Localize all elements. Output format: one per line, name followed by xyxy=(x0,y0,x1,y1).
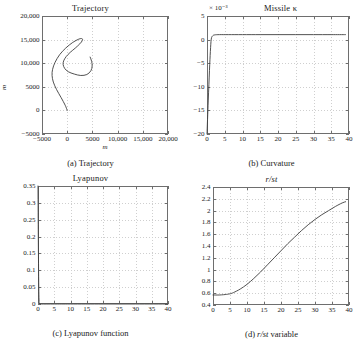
ytick-label: 0.15 xyxy=(23,250,35,257)
xtick-label: 35 xyxy=(329,307,336,314)
ytick-label: 0.05 xyxy=(23,284,35,291)
ytick-label: 2.4 xyxy=(202,184,211,191)
panel-a-caption: (a) Trajectory xyxy=(0,158,181,168)
xtick-label: 10 xyxy=(244,307,251,314)
panel-d-caption: (d) r/st variable xyxy=(181,329,362,339)
axis-tick-y xyxy=(42,134,45,135)
plot-curve-layer xyxy=(207,16,349,134)
series-missile-curvature xyxy=(207,35,345,134)
ytick-label: 1.4 xyxy=(202,243,211,250)
panel-a-ylabel: m xyxy=(1,85,8,90)
axis-tick-x xyxy=(349,131,350,134)
xtick-label: 15 xyxy=(257,136,264,143)
ytick-label: 0.2 xyxy=(27,233,36,240)
xtick-label: 20,000 xyxy=(158,136,177,143)
plot-curve-layer xyxy=(38,186,168,304)
xtick-label: 20 xyxy=(278,307,285,314)
panel-a-xlabel: m xyxy=(42,144,168,151)
ytick-label: 1.8 xyxy=(202,219,211,226)
ytick-label: 1.6 xyxy=(202,231,211,238)
panel-d-caption-suffix: variable xyxy=(268,329,298,339)
xtick-label: 25 xyxy=(116,306,123,313)
ytick-label: −15 xyxy=(194,107,205,114)
xtick-label: 20 xyxy=(275,136,282,143)
series-lyapunov xyxy=(38,186,168,304)
ytick-label: 10,000 xyxy=(20,60,39,67)
panel-c-axes: 051015202530354000.050.10.150.20.250.30.… xyxy=(38,186,168,304)
ytick-label: 0.8 xyxy=(202,278,211,285)
xtick-label: 0 xyxy=(65,136,69,143)
ytick-label: 0.4 xyxy=(202,302,211,309)
xtick-label: 0 xyxy=(36,306,40,313)
xtick-label: 0 xyxy=(205,136,209,143)
panel-a-axes: −50000500010,00015,00020,000−50000500010… xyxy=(42,16,168,134)
series-r-over-st xyxy=(213,202,346,295)
xtick-label: 35 xyxy=(148,306,155,313)
ytick-label: 1.2 xyxy=(202,254,211,261)
ytick-label: −20 xyxy=(194,131,205,138)
xtick-label: 25 xyxy=(295,307,302,314)
ytick-label: 0 xyxy=(201,36,205,43)
axis-tick-x xyxy=(168,131,169,134)
xtick-label: 15,000 xyxy=(133,136,152,143)
axis-tick-x xyxy=(168,301,169,304)
panel-c-lyapunov: Lyapunov 051015202530354000.050.10.150.2… xyxy=(0,170,181,340)
xtick-label: 15 xyxy=(83,306,90,313)
series-trajectory xyxy=(52,39,92,111)
ytick-label: −10 xyxy=(194,83,205,90)
xtick-label: 25 xyxy=(292,136,299,143)
panel-b-curvature: Missile κ × 10⁻³ 0510152025303540−20−15−… xyxy=(181,0,362,170)
axis-tick-y xyxy=(207,134,210,135)
ytick-label: 2.2 xyxy=(202,195,211,202)
figure-four-panel: Trajectory m −50000500010,00015,00020,00… xyxy=(0,0,362,341)
xtick-label: 15 xyxy=(261,307,268,314)
xtick-label: 5 xyxy=(228,307,232,314)
ytick-label: 0.3 xyxy=(27,199,36,206)
ytick-label: 15,000 xyxy=(20,36,39,43)
xtick-label: 30 xyxy=(310,136,317,143)
axis-tick-x xyxy=(168,186,169,189)
xtick-label: 0 xyxy=(211,307,215,314)
axis-tick-y xyxy=(165,134,168,135)
axis-tick-x xyxy=(349,16,350,19)
axis-tick-x xyxy=(168,16,169,19)
ytick-label: 0.35 xyxy=(23,183,35,190)
axis-tick-y xyxy=(346,305,349,306)
panel-d-caption-prefix: (d) xyxy=(245,329,257,339)
xtick-label: 35 xyxy=(328,136,335,143)
panel-b-axes: 0510152025303540−20−15−10−505 xyxy=(207,16,349,134)
plot-curve-layer xyxy=(42,16,168,134)
ytick-label: −5000 xyxy=(22,131,40,138)
xtick-label: 30 xyxy=(132,306,139,313)
ytick-label: 0 xyxy=(36,107,40,114)
xtick-label: 20 xyxy=(100,306,107,313)
xtick-label: 40 xyxy=(346,136,353,143)
panel-d-rst-variable: r/st 05101520253035400.40.60.811.21.41.6… xyxy=(181,171,362,341)
axis-tick-x xyxy=(349,187,350,190)
xtick-label: 10,000 xyxy=(108,136,127,143)
xtick-label: 30 xyxy=(312,307,319,314)
ytick-label: 0.1 xyxy=(27,267,36,274)
ytick-label: 0.6 xyxy=(202,290,211,297)
panel-a-trajectory: Trajectory m −50000500010,00015,00020,00… xyxy=(0,0,181,170)
ytick-label: 1 xyxy=(207,266,211,273)
ytick-label: 2 xyxy=(207,207,211,214)
xtick-label: 5 xyxy=(53,306,57,313)
ytick-label: 0.25 xyxy=(23,216,35,223)
panel-b-exponent-label: × 10⁻³ xyxy=(209,4,228,12)
xtick-label: 5000 xyxy=(85,136,99,143)
xtick-label: 10 xyxy=(67,306,74,313)
plot-curve-layer xyxy=(213,187,349,305)
axis-tick-x xyxy=(349,302,350,305)
xtick-label: 5 xyxy=(223,136,227,143)
ytick-label: 5000 xyxy=(26,83,40,90)
xtick-label: 10 xyxy=(239,136,246,143)
ytick-label: 20,000 xyxy=(20,13,39,20)
ytick-label: 0 xyxy=(32,301,36,308)
panel-d-axes: 05101520253035400.40.60.811.21.41.61.822… xyxy=(213,187,349,305)
xtick-label: 40 xyxy=(346,307,353,314)
axis-tick-y xyxy=(346,134,349,135)
panel-b-caption: (b) Curvature xyxy=(181,158,362,168)
panel-c-caption: (c) Lyapunov function xyxy=(0,328,181,338)
ytick-label: 5 xyxy=(201,13,205,20)
